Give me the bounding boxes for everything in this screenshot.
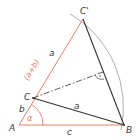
label-side-c: c <box>67 127 72 137</box>
label-c-prime-point: C' <box>80 6 89 16</box>
label-a-point: A <box>8 123 15 133</box>
label-side-a-lower: a <box>74 101 80 111</box>
label-alpha: α <box>27 114 33 123</box>
label-b-point: B <box>126 125 132 135</box>
label-side-a-upper: a <box>49 48 55 58</box>
construction-arc <box>70 14 123 130</box>
label-side-b: b <box>19 104 25 114</box>
point-b <box>123 124 125 126</box>
point-c <box>32 97 34 99</box>
right-angle-dot <box>99 75 100 76</box>
angle-alpha-arc <box>31 104 43 125</box>
triangle-diagram: A B C C' a a b c α (a+b) <box>0 0 140 140</box>
label-c-point: C <box>24 92 31 102</box>
label-sum-a-b: (a+b) <box>22 58 42 82</box>
